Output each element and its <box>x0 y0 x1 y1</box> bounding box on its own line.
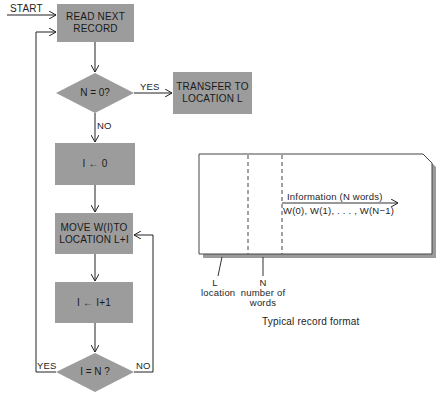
no-label-i-equals-n: NO <box>136 360 151 371</box>
move-word-text: MOVE W(I)TO LOCATION L+I <box>59 222 129 246</box>
information-label: Information (N words) <box>287 191 383 202</box>
yes-label-n-zero: YES <box>140 81 160 92</box>
start-label: START <box>10 3 43 14</box>
init-i-box: I ← 0 <box>55 143 135 185</box>
field-l-description: location <box>201 287 235 298</box>
decision-n-zero-text: N = 0? <box>56 87 134 99</box>
decision-i-equals-n-text: I = N ? <box>56 366 134 378</box>
yes-label-i-equals-n: YES <box>37 360 57 371</box>
record-format-caption: Typical record format <box>262 316 360 327</box>
increment-i-text: I ← I+1 <box>77 297 111 309</box>
transfer-to-location-box: TRANSFER TO LOCATION L <box>173 72 252 114</box>
pointer-l <box>218 257 222 276</box>
field-n-description-line2: words <box>238 297 288 308</box>
read-next-record-box: READ NEXT RECORD <box>57 4 134 42</box>
loop-back-arrow <box>36 32 56 372</box>
no-label-n-zero: NO <box>97 120 112 131</box>
transfer-to-location-text: TRANSFER TO LOCATION L <box>176 81 248 105</box>
words-list-label: W(0), W(1), . . . , W(N−1) <box>283 205 394 216</box>
no-feedback-arrow <box>134 235 153 372</box>
record-card <box>199 154 432 254</box>
read-next-record-text: READ NEXT RECORD <box>66 11 125 35</box>
increment-i-box: I ← I+1 <box>55 282 133 323</box>
init-i-text: I ← 0 <box>83 158 108 170</box>
move-word-box: MOVE W(I)TO LOCATION L+I <box>55 213 133 254</box>
